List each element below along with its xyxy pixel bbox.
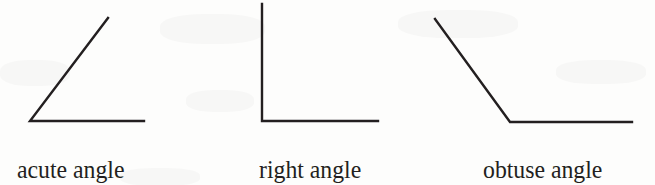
- angle-types-figure: acute angle right angle obtuse angle: [0, 0, 655, 185]
- right-angle-icon: [262, 4, 378, 121]
- caption-row: acute angle right angle obtuse angle: [0, 140, 655, 185]
- acute-angle-icon: [30, 18, 144, 121]
- caption-right-angle: right angle: [259, 157, 361, 182]
- caption-obtuse-angle: obtuse angle: [483, 157, 602, 182]
- caption-acute-angle: acute angle: [17, 157, 124, 182]
- angle-drawings: [0, 0, 655, 145]
- obtuse-angle-icon: [435, 19, 632, 122]
